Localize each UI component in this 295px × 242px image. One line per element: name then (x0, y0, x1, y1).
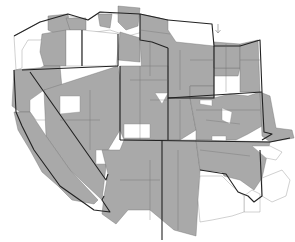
county-choropleth-map (0, 0, 295, 242)
great-basin-region (12, 66, 122, 204)
north-arrow (216, 24, 221, 33)
